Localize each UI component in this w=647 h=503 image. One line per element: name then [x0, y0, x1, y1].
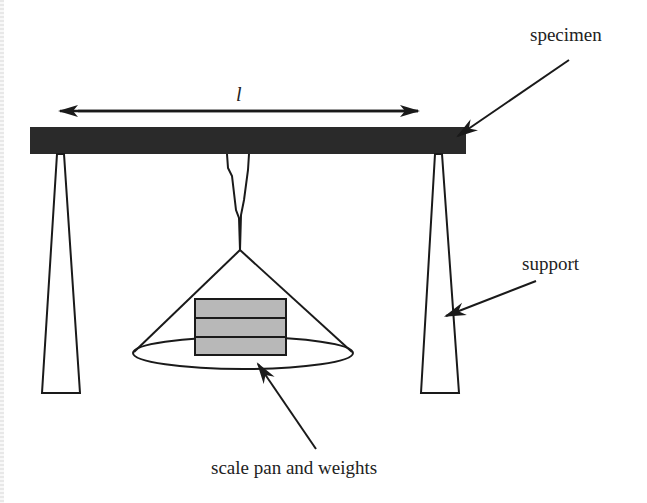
specimen-pointer-arrow — [458, 60, 569, 136]
left-support — [42, 154, 80, 393]
scale-pan-pointer-arrow — [258, 364, 316, 449]
diagram-canvas: l specimen support scale pan and weights — [0, 0, 647, 503]
specimen-label: specimen — [530, 24, 602, 46]
specimen-beam — [30, 127, 466, 154]
right-support — [421, 154, 459, 393]
length-label: l — [236, 83, 242, 106]
weights — [195, 299, 286, 355]
hanger — [227, 154, 249, 250]
support-label: support — [522, 253, 579, 275]
diagram-svg — [0, 0, 647, 503]
scale-pan-label: scale pan and weights — [211, 457, 377, 479]
support-pointer-arrow — [446, 281, 536, 316]
